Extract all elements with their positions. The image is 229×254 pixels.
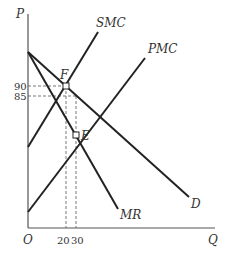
smc-label: SMC [96, 16, 126, 30]
x-tick-20: 20 [57, 235, 70, 246]
mr-curve [28, 52, 118, 209]
demand-curve [28, 52, 189, 197]
pmc-label: PMC [147, 42, 178, 56]
origin-label: O [23, 233, 33, 247]
point-f-label: F [59, 68, 69, 82]
point-f-marker [63, 83, 69, 89]
demand-label: D [190, 197, 201, 211]
y-axis-label: P [15, 7, 25, 21]
mr-label: MR [119, 208, 141, 222]
monopoly-externality-diagram: P Q O 90 85 20 30 SMC PMC D MR F E [0, 0, 229, 254]
point-e-label: E [80, 129, 90, 143]
y-tick-85: 85 [14, 91, 27, 102]
x-axis-label: Q [208, 233, 218, 247]
point-e-marker [73, 132, 79, 138]
x-tick-30: 30 [71, 235, 84, 246]
